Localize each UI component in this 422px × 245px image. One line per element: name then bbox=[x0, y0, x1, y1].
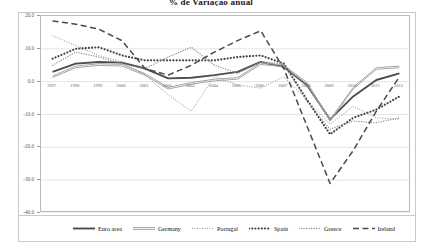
x-axis-tick-label: 2012 bbox=[387, 83, 409, 89]
x-axis-tick-label: 2006 bbox=[249, 83, 271, 89]
legend-item-greece[interactable]: Greece bbox=[299, 225, 342, 232]
legend-label: Spain bbox=[274, 225, 288, 232]
y-axis-tick-label: -20.0 bbox=[0, 143, 34, 149]
y-axis-tick-label: -40.0 bbox=[0, 209, 34, 215]
y-axis-tick-label: 0.0 bbox=[0, 78, 34, 84]
legend-item-euro-area[interactable]: Euro area bbox=[73, 225, 122, 232]
legend-swatch-icon bbox=[299, 225, 321, 232]
x-axis-tick-label: 2005 bbox=[226, 83, 248, 89]
legend-label: Portugal bbox=[217, 225, 238, 232]
legend-swatch-icon bbox=[192, 225, 214, 232]
x-axis-tick-label: 2008 bbox=[295, 83, 317, 89]
legend-label: Euro area bbox=[98, 225, 122, 232]
chart-legend: Euro areaGermanyPortugalSpainGreeceIrela… bbox=[18, 216, 416, 242]
x-axis-tick-label: 2001 bbox=[133, 83, 155, 89]
x-axis-tick-label: 1999 bbox=[87, 83, 109, 89]
series-canvas bbox=[41, 16, 411, 213]
chart-container: % de Variação anual 20.010.00.0-10.0-20.… bbox=[0, 0, 422, 245]
legend-label: Germany bbox=[158, 225, 181, 232]
plot-area bbox=[40, 15, 410, 212]
x-axis-tick-label: 2009 bbox=[318, 83, 340, 89]
x-axis-tick-label: 2010 bbox=[341, 83, 363, 89]
chart-title: % de Variação anual bbox=[0, 0, 422, 6]
x-axis-tick-label: 2002 bbox=[156, 83, 178, 89]
series-germany bbox=[53, 63, 400, 121]
legend-swatch-icon bbox=[133, 225, 155, 232]
y-axis-tick-label: -30.0 bbox=[0, 176, 34, 182]
y-axis-tick-label: 10.0 bbox=[0, 45, 34, 51]
x-axis-tick-label: 2000 bbox=[110, 83, 132, 89]
legend-swatch-icon bbox=[353, 225, 375, 232]
legend-item-portugal[interactable]: Portugal bbox=[192, 225, 238, 232]
y-axis-tick-label: -10.0 bbox=[0, 111, 34, 117]
x-axis-tick-label: 2011 bbox=[364, 83, 386, 89]
legend-item-ireland[interactable]: Ireland bbox=[353, 225, 396, 232]
legend-swatch-icon bbox=[73, 225, 95, 232]
x-axis-tick-label: 1998 bbox=[64, 83, 86, 89]
y-axis-tick-mark bbox=[37, 212, 40, 213]
legend-label: Greece bbox=[324, 225, 342, 232]
x-axis-tick-label: 2007 bbox=[272, 83, 294, 89]
x-axis-tick-label: 2003 bbox=[179, 83, 201, 89]
x-axis-tick-label: 2004 bbox=[202, 83, 224, 89]
series-spain bbox=[53, 47, 400, 134]
legend-item-spain[interactable]: Spain bbox=[249, 225, 288, 232]
legend-swatch-icon bbox=[249, 225, 271, 232]
legend-item-germany[interactable]: Germany bbox=[133, 225, 181, 232]
x-axis-tick-label: 1997 bbox=[41, 83, 63, 89]
legend-label: Ireland bbox=[378, 225, 396, 232]
y-axis-tick-label: 20.0 bbox=[0, 12, 34, 18]
